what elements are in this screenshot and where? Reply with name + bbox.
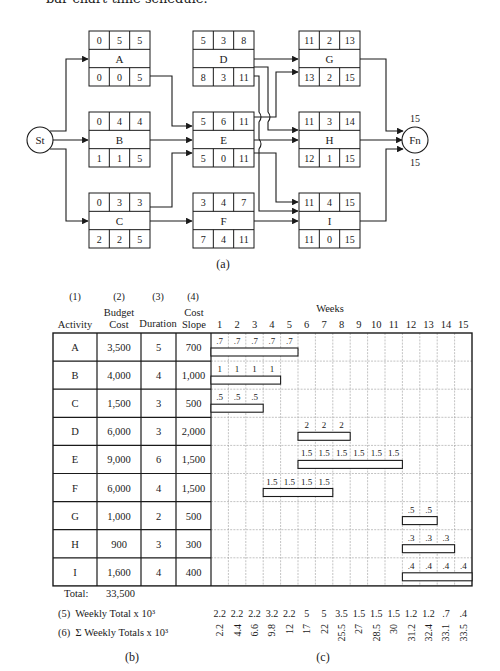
cell-duration: 3 [156, 398, 161, 409]
activity-name: E [220, 134, 227, 146]
cumulative-total-value: 2.2 [214, 624, 225, 637]
finish-late-time: 15 [410, 157, 420, 168]
gantt-grid [211, 333, 472, 586]
week-number-labels: 123456789101112131415 [217, 319, 468, 330]
cumulative-total-value: 22 [319, 624, 330, 634]
total-float: 4 [221, 234, 226, 245]
weekly-cost-label: .3 [408, 533, 415, 543]
activity-node-i: 11415I11015 [299, 193, 360, 248]
cumulative-total-value: 25.5 [336, 624, 347, 642]
table-row-i: I1,6004400 [73, 567, 201, 578]
late-start: 13 [304, 72, 314, 83]
late-start: 7 [201, 234, 206, 245]
late-finish: 5 [137, 72, 142, 83]
gantt-bar-c [211, 404, 263, 412]
late-start: 1 [97, 153, 102, 164]
late-start: 5 [201, 153, 206, 164]
cumulative-total-value: 27 [353, 624, 364, 634]
cell-activity: D [71, 426, 79, 437]
weekly-total-value: 5 [304, 608, 309, 619]
cell-duration: 5 [156, 342, 161, 353]
cell-slope: 1,000 [182, 370, 206, 381]
total-float: 3 [221, 72, 226, 83]
cell-duration: 3 [156, 539, 161, 550]
weekly-cost-label: .5 [425, 505, 432, 515]
duration: 2 [327, 35, 332, 46]
total-float: 0 [221, 153, 226, 164]
activity-name: I [328, 215, 332, 227]
total-label: Total: [64, 588, 88, 599]
duration: 4 [327, 197, 332, 208]
total-float: 1 [117, 153, 122, 164]
dependency-arrow-c-e [150, 153, 192, 207]
cell-activity: E [72, 454, 78, 465]
late-start: 2 [97, 234, 102, 245]
activity-node-f: 347F7411 [193, 193, 254, 248]
cell-duration: 4 [156, 567, 162, 578]
weekly-total-value: 1.5 [353, 608, 366, 619]
week-label: 7 [321, 319, 326, 330]
week-label: 11 [389, 319, 399, 330]
weekly-cost-label: 1.5 [266, 477, 278, 487]
weekly-total-value: 1.2 [422, 608, 435, 619]
total-value: 33,500 [106, 588, 135, 599]
activity-name: A [116, 53, 124, 65]
cell-activity: C [71, 398, 78, 409]
finish-early-time: 15 [410, 113, 420, 124]
dependency-arrow-st-c [50, 149, 88, 221]
duration: 4 [221, 197, 226, 208]
cell-budget: 1,500 [107, 398, 131, 409]
weekly-cost-label: 1.5 [371, 448, 383, 458]
week-label: 3 [252, 319, 257, 330]
activity-node-e: 5611E5011 [193, 112, 254, 167]
gantt-bar-group-f: 1.51.51.51.5 [263, 477, 333, 497]
header-budget-line1: Budget [104, 307, 134, 318]
early-finish: 3 [137, 197, 142, 208]
cell-budget: 1,600 [107, 567, 131, 578]
early-finish: 15 [345, 197, 355, 208]
cell-budget: 6,000 [107, 483, 131, 494]
duration: 3 [221, 35, 226, 46]
weekly-cost-label: .5 [216, 392, 223, 402]
late-start: 12 [304, 153, 314, 164]
network-subfigure-label: (a) [216, 257, 229, 271]
cumulative-total-value: 33.5 [458, 624, 469, 642]
cell-activity: F [72, 483, 78, 494]
early-finish: 8 [241, 35, 246, 46]
header-duration: Duration [139, 318, 177, 329]
cell-slope: 300 [186, 539, 202, 550]
cell-duration: 4 [156, 483, 162, 494]
duration: 3 [327, 116, 332, 127]
gantt-bar-d [298, 432, 350, 440]
gantt-bar-group-i: .4.4.4.4 [402, 561, 472, 581]
cumulative-total-label: (6) Σ Weekly Totals x 10³ [58, 627, 168, 639]
week-label: 5 [287, 319, 292, 330]
gantt-bar-i [402, 573, 472, 581]
late-start: 0 [97, 72, 102, 83]
weekly-total-value: 2.2 [283, 608, 296, 619]
late-finish: 15 [345, 234, 355, 245]
dependency-arrow-e-g [254, 72, 298, 117]
gantt-bar-e [298, 460, 402, 468]
weekly-cost-label: 2 [339, 420, 344, 430]
gantt-bar-group-c: .5.5.5 [211, 392, 263, 412]
table-row-e: E9,00061,500 [72, 454, 206, 465]
dependency-arrow-i-fn [360, 149, 403, 221]
weekly-cost-label: 1.5 [336, 448, 348, 458]
early-finish: 11 [239, 116, 249, 127]
week-label: 6 [304, 319, 309, 330]
early-finish: 4 [137, 116, 142, 127]
weekly-total-value: 5 [322, 608, 327, 619]
weekly-cost-label: 1 [235, 364, 240, 374]
col-number-activity: (1) [69, 291, 81, 303]
cumulative-total-value: 4.4 [232, 624, 243, 637]
gantt-bar-group-e: 1.51.51.51.51.51.5 [298, 448, 402, 468]
week-label: 10 [371, 319, 382, 330]
table-subfigure-label: (b) [125, 650, 139, 664]
gantt-bar-group-h: .3.3.3 [402, 533, 454, 553]
gantt-bar-h [402, 545, 454, 553]
dependency-arrow-st-a [50, 59, 88, 131]
totals: Total: 33,500 (5) Weekly Total x 10³ (6)… [58, 588, 168, 639]
gantt-bars: .7.7.7.7.71111.5.5.52221.51.51.51.51.51.… [211, 336, 472, 581]
cell-slope: 2,000 [182, 426, 206, 437]
